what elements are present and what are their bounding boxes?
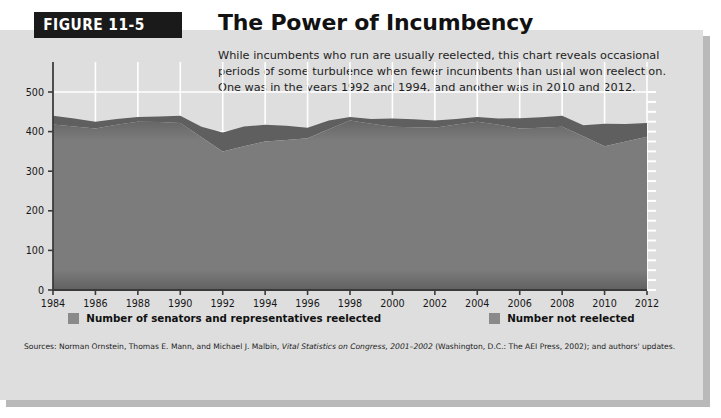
legend-swatch-reelected — [68, 313, 79, 324]
axis-y-tick-label: 500 — [26, 87, 44, 98]
axis-x-tick-label: 2002 — [423, 298, 447, 309]
axis-x-tick-label: 1990 — [168, 298, 192, 309]
panel-shadow-bottom — [6, 400, 710, 407]
axis-y-tick-label: 0 — [38, 285, 44, 296]
axis-x-tick-label: 1986 — [83, 298, 107, 309]
axis-x-tick-label: 2000 — [380, 298, 404, 309]
axis-x-tick-label: 1998 — [338, 298, 362, 309]
axis-y-tick-label: 300 — [26, 166, 44, 177]
legend-label-reelected: Number of senators and representatives r… — [86, 312, 381, 324]
legend-label-not-reelected: Number not reelected — [507, 312, 635, 324]
axis-x-tick-label: 2010 — [592, 298, 616, 309]
axis-x-tick-label: 1992 — [211, 298, 235, 309]
axis-y-tick-label: 400 — [26, 126, 44, 137]
area-shading — [53, 121, 647, 290]
axis-x-tick-label: 1984 — [41, 298, 65, 309]
panel-shadow-right — [703, 36, 710, 404]
legend-item-reelected: Number of senators and representatives r… — [68, 312, 381, 324]
axis-y-tick-label: 200 — [26, 205, 44, 216]
axis-x-tick-label: 2012 — [635, 298, 659, 309]
axis-x-tick-label: 1994 — [253, 298, 277, 309]
legend-swatch-not-reelected — [489, 313, 500, 324]
axis-x-tick-label: 2008 — [550, 298, 574, 309]
axis-x-tick-label: 2004 — [465, 298, 489, 309]
legend-item-not-reelected: Number not reelected — [489, 312, 635, 324]
axis-y-tick-label: 100 — [26, 245, 44, 256]
axis-x-tick-label: 1996 — [295, 298, 319, 309]
axis-x-tick-label: 1988 — [126, 298, 150, 309]
source-suffix: (Washington, D.C.: The AEI Press, 2002);… — [433, 342, 675, 351]
figure-page: FIGURE 11-5 The Power of Incumbency Whil… — [0, 0, 721, 418]
source-prefix: Sources: Norman Ornstein, Thomas E. Mann… — [24, 342, 282, 351]
chart-legend: Number of senators and representatives r… — [0, 312, 703, 324]
source-title: Vital Statistics on Congress, 2001–2002 — [282, 342, 433, 351]
axis-x-tick-label: 2006 — [508, 298, 532, 309]
source-citation: Sources: Norman Ornstein, Thomas E. Mann… — [24, 342, 684, 352]
